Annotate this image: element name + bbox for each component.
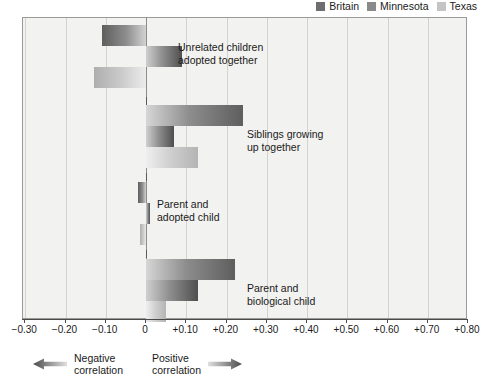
- bar-texas-2: [140, 224, 146, 245]
- gridline-+0.30: [267, 18, 268, 318]
- positive-correlation-annotation: Positive correlation: [152, 352, 242, 376]
- tick-label-5: +0.20: [213, 324, 238, 335]
- left-arrow-icon: [33, 358, 67, 370]
- tick-mark-5: [226, 319, 227, 323]
- category-label-siblings: Siblings growing up together: [247, 128, 323, 153]
- tick-mark-8: [346, 319, 347, 323]
- legend-label-texas: Texas: [450, 1, 477, 12]
- gridline-−0.10: [106, 18, 107, 318]
- tick-label-3: 0: [142, 324, 148, 335]
- legend-swatch-minnesota: [367, 2, 376, 11]
- tick-label-2: −0.10: [92, 324, 117, 335]
- negative-correlation-annotation: Negative correlation: [33, 352, 123, 376]
- gridline-+0.40: [307, 18, 308, 318]
- tick-mark-7: [306, 319, 307, 323]
- bar-britain-0: [102, 25, 146, 46]
- tick-mark-6: [266, 319, 267, 323]
- tick-mark-3: [145, 319, 146, 323]
- legend-label-minnesota: Minnesota: [380, 1, 428, 12]
- tick-label-7: +0.40: [293, 324, 318, 335]
- category-label-biological: Parent and biological child: [247, 282, 315, 307]
- bar-texas-0: [94, 67, 146, 88]
- tick-label-8: +0.50: [334, 324, 359, 335]
- legend-swatch-texas: [437, 2, 446, 11]
- tick-label-6: +0.30: [253, 324, 278, 335]
- legend-item-texas: Texas: [437, 1, 477, 12]
- bar-britain-2: [138, 182, 146, 203]
- tick-mark-0: [24, 319, 25, 323]
- bar-minnesota-2: [146, 203, 150, 224]
- zero-stub-1: [146, 173, 147, 181]
- legend-item-britain: Britain: [316, 1, 359, 12]
- tick-mark-2: [105, 319, 106, 323]
- legend-item-minnesota: Minnesota: [367, 1, 428, 12]
- positive-correlation-label: Positive correlation: [152, 352, 201, 376]
- tick-mark-1: [65, 319, 66, 323]
- gridline-+0.70: [428, 18, 429, 318]
- legend-swatch-britain: [316, 2, 325, 11]
- category-label-unrelated: Unrelated children adopted together: [178, 41, 263, 66]
- bar-texas-1: [146, 147, 198, 168]
- tick-mark-11: [467, 319, 468, 323]
- tick-label-0: −0.30: [12, 324, 37, 335]
- legend-label-britain: Britain: [329, 1, 359, 12]
- chart-root: BritainMinnesotaTexas −0.30−0.20−0.100+0…: [0, 0, 485, 380]
- chart-legend: BritainMinnesotaTexas: [316, 1, 477, 12]
- right-arrow-icon: [208, 358, 242, 370]
- bar-britain-3: [146, 259, 235, 280]
- tick-label-10: +0.70: [414, 324, 439, 335]
- bar-minnesota-0: [146, 46, 182, 67]
- zero-stub-0: [146, 97, 147, 105]
- tick-mark-10: [427, 319, 428, 323]
- bar-britain-1: [146, 105, 243, 126]
- category-label-adopted: Parent and adopted child: [157, 198, 219, 223]
- tick-label-4: +0.10: [173, 324, 198, 335]
- bar-minnesota-3: [146, 280, 198, 301]
- negative-correlation-label: Negative correlation: [74, 352, 123, 376]
- tick-label-9: +0.60: [374, 324, 399, 335]
- tick-label-1: −0.20: [52, 324, 77, 335]
- x-axis-line: [22, 319, 467, 320]
- gridline-+0.50: [347, 18, 348, 318]
- gridline-−0.20: [66, 18, 67, 318]
- gridline-+0.60: [388, 18, 389, 318]
- tick-mark-4: [185, 319, 186, 323]
- tick-label-11: +0.80: [454, 324, 479, 335]
- zero-stub-2: [146, 250, 147, 258]
- gridline-−0.30: [25, 18, 26, 318]
- tick-mark-9: [387, 319, 388, 323]
- bar-minnesota-1: [146, 126, 174, 147]
